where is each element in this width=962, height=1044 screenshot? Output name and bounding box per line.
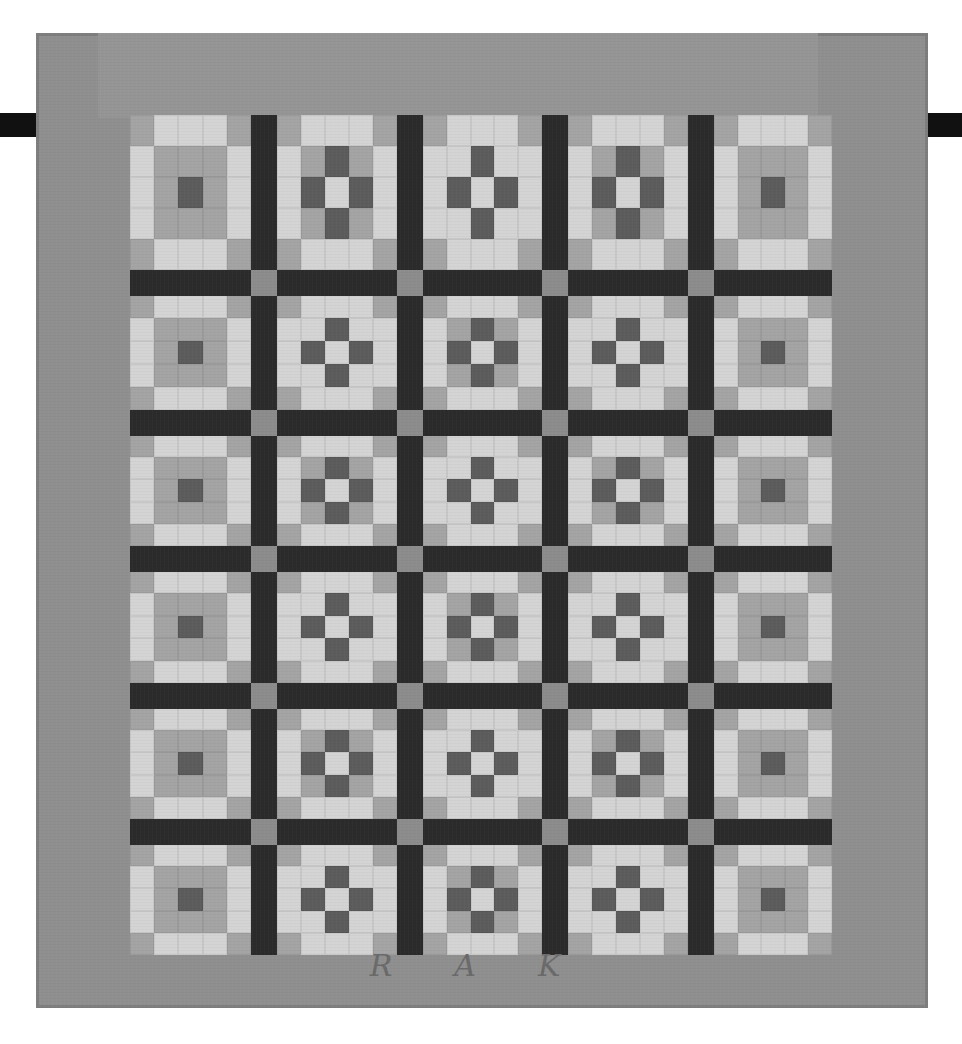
cornerstone xyxy=(251,683,277,709)
cornerstone xyxy=(397,410,423,436)
quilt-block xyxy=(568,844,688,955)
cornerstone xyxy=(397,819,423,845)
cornerstone xyxy=(688,546,714,572)
quilt-block xyxy=(714,295,832,410)
quilt-block xyxy=(714,844,832,955)
quilt-block xyxy=(277,295,397,410)
cornerstone xyxy=(688,683,714,709)
quilt-block xyxy=(130,844,251,955)
quilt-top-border-panel xyxy=(98,33,818,118)
quilt-block xyxy=(277,844,397,955)
quilt-block xyxy=(568,571,688,683)
sashing-horizontal xyxy=(130,683,832,709)
quilt-block xyxy=(130,115,251,270)
quilt: RAK xyxy=(36,33,928,1008)
cornerstone xyxy=(542,410,568,436)
cornerstone xyxy=(542,270,568,296)
quilt-block xyxy=(568,295,688,410)
quilt-block xyxy=(130,708,251,819)
cornerstone xyxy=(542,819,568,845)
embroidered-initials: RAK xyxy=(36,948,928,983)
cornerstone xyxy=(688,410,714,436)
quilt-block xyxy=(423,571,542,683)
quilt-block xyxy=(130,295,251,410)
quilt-block xyxy=(714,708,832,819)
sashing-horizontal xyxy=(130,819,832,845)
hanging-rod-left xyxy=(0,113,36,137)
quilt-block xyxy=(714,435,832,546)
initial-2: A xyxy=(454,948,510,983)
quilt-block xyxy=(714,571,832,683)
cornerstone xyxy=(251,270,277,296)
quilt-block xyxy=(277,115,397,270)
quilt-block xyxy=(277,708,397,819)
initial-1: R xyxy=(370,948,427,983)
cornerstone xyxy=(542,546,568,572)
quilt-block xyxy=(423,844,542,955)
quilt-block xyxy=(277,435,397,546)
quilt-block xyxy=(568,435,688,546)
initial-3: K xyxy=(538,948,594,983)
quilt-block xyxy=(714,115,832,270)
cornerstone xyxy=(688,270,714,296)
cornerstone xyxy=(251,546,277,572)
sashing-horizontal xyxy=(130,270,832,296)
quilt-block xyxy=(130,571,251,683)
hanging-rod-right xyxy=(928,113,962,137)
quilt-block xyxy=(568,708,688,819)
cornerstone xyxy=(542,683,568,709)
quilt-block xyxy=(130,435,251,546)
quilt-block xyxy=(423,435,542,546)
cornerstone xyxy=(397,683,423,709)
cornerstone xyxy=(397,270,423,296)
cornerstone xyxy=(397,546,423,572)
quilt-block xyxy=(568,115,688,270)
quilt-block xyxy=(423,295,542,410)
cornerstone xyxy=(688,819,714,845)
cornerstone xyxy=(251,410,277,436)
quilt-block xyxy=(423,115,542,270)
sashing-horizontal xyxy=(130,546,832,572)
cornerstone xyxy=(251,819,277,845)
sashing-horizontal xyxy=(130,410,832,436)
quilt-block-grid xyxy=(130,115,832,922)
quilt-block xyxy=(277,571,397,683)
quilt-block xyxy=(423,708,542,819)
